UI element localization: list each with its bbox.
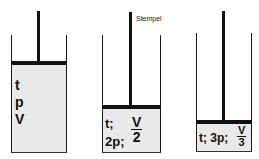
volume-denominator-3: 3: [237, 137, 246, 148]
piston-rod-3: [222, 11, 225, 121]
stempel-label: Stempel: [136, 15, 162, 22]
label-volume-1: V: [15, 112, 24, 126]
cylinder-2-bottom: [102, 152, 161, 153]
volume-fraction-2: V 2: [131, 115, 142, 144]
label-pressure-2: 2p;: [105, 135, 125, 148]
cylinder-2-right-wall: [160, 35, 161, 153]
label-state-3: t; 3p;: [199, 132, 228, 144]
cylinder-3-right-wall: [251, 33, 252, 152]
label-temperature-1: t: [15, 78, 20, 92]
volume-fraction-3: V 3: [237, 125, 246, 148]
cylinder-3-bottom: [196, 151, 252, 152]
volume-numerator-2: V: [131, 115, 142, 130]
piston-rod-1: [37, 11, 40, 62]
cylinder-3-left-wall: [196, 33, 197, 152]
piston-rod-2: [129, 12, 132, 106]
cylinder-2-left-wall: [102, 35, 103, 153]
cylinder-1-right-wall: [66, 35, 67, 153]
label-pressure-1: p: [15, 95, 24, 109]
cylinder-1-left-wall: [11, 35, 12, 153]
volume-denominator-2: 2: [131, 130, 142, 144]
cylinder-1-bottom: [11, 152, 67, 153]
label-temperature-2: t;: [105, 117, 114, 130]
